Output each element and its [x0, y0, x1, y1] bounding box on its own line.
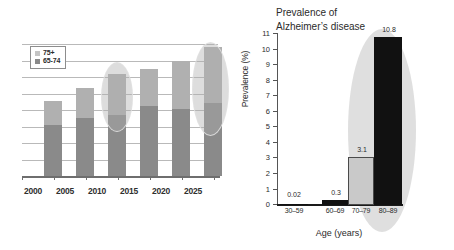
two-panel-figure: 75+ 65-74 2000 2005 2010 2015 2020 2025 … [0, 0, 454, 250]
bar-2015 [140, 69, 158, 176]
bar-segment-75plus [76, 88, 94, 118]
x-tick-label: 70–79 [346, 207, 376, 214]
bar-value-label: 0.02 [280, 191, 308, 198]
legend-swatch-icon [35, 59, 40, 64]
bar-segment-65-74 [44, 125, 62, 176]
y-tick-label: 8 [240, 76, 270, 85]
legend-label: 65-74 [43, 57, 60, 65]
y-tick-label: 6 [240, 107, 270, 116]
bar-2000 [44, 101, 62, 176]
left-chart-panel: 75+ 65-74 2000 2005 2010 2015 2020 2025 [0, 0, 232, 250]
y-tick [273, 49, 277, 50]
right-plot-area [278, 33, 400, 205]
y-tick [273, 157, 277, 158]
bar-segment-75plus [108, 74, 126, 115]
legend-label: 75+ [43, 49, 55, 57]
bar-segment-75plus [44, 101, 62, 125]
bar-2010 [108, 74, 126, 176]
y-tick [273, 173, 277, 174]
right-chart-panel: Prevalence of Alzheimer’s disease Preval… [232, 0, 454, 250]
y-tick [273, 33, 277, 34]
bar-value-label: 3.1 [348, 146, 376, 153]
y-tick-label: 4 [240, 138, 270, 147]
x-tick [118, 176, 119, 180]
y-tick-label: 1 [240, 185, 270, 194]
y-tick-label: 10 [240, 45, 270, 54]
bar-segment-65-74 [108, 115, 126, 176]
bar-age-60-69 [322, 200, 348, 205]
left-chart-legend: 75+ 65-74 [30, 46, 66, 69]
x-axis-label: Age (years) [278, 228, 400, 238]
y-tick [273, 204, 277, 205]
x-tick [22, 176, 23, 180]
bar-2005 [76, 88, 94, 176]
y-tick [273, 111, 277, 112]
chart-title-line-1: Prevalence of [276, 6, 406, 20]
y-tick-label: 0 [240, 200, 270, 209]
x-tick [214, 176, 215, 180]
y-tick-label: 7 [240, 91, 270, 100]
bar-2025 [204, 47, 222, 176]
bar-2020 [172, 61, 190, 176]
bar-segment-65-74 [172, 109, 190, 176]
y-tick-label: 3 [240, 153, 270, 162]
x-tick [86, 176, 87, 180]
bar-age-80-89 [374, 37, 402, 205]
bar-age-30-59 [280, 204, 308, 206]
bar-segment-65-74 [76, 118, 94, 176]
y-tick [273, 80, 277, 81]
bar-value-label: 0.3 [322, 189, 350, 196]
bar-segment-65-74 [140, 106, 158, 176]
y-tick [273, 126, 277, 127]
y-tick [273, 189, 277, 190]
left-x-axis-line [22, 176, 220, 178]
legend-entry-65-74: 65-74 [35, 57, 60, 65]
x-tick [54, 176, 55, 180]
bar-segment-65-74 [204, 103, 222, 176]
gridline [22, 44, 218, 45]
x-tick-label: 30–59 [279, 207, 309, 214]
y-tick-label: 11 [240, 29, 270, 38]
y-tick-label: 9 [240, 60, 270, 69]
y-tick [273, 95, 277, 96]
bar-segment-75plus [140, 69, 158, 106]
y-tick-label: 2 [240, 169, 270, 178]
bar-segment-75plus [172, 61, 190, 109]
x-tick [150, 176, 151, 180]
legend-swatch-icon [35, 51, 40, 56]
bar-age-70-79 [348, 157, 374, 205]
y-tick [273, 142, 277, 143]
x-tick-label: 80–89 [373, 207, 403, 214]
bar-value-label: 10.8 [375, 26, 403, 33]
x-tick [182, 176, 183, 180]
y-tick-label: 5 [240, 122, 270, 131]
legend-entry-75plus: 75+ [35, 49, 60, 57]
y-tick [273, 64, 277, 65]
x-tick-label: 2025 [173, 186, 213, 196]
bar-segment-75plus [204, 47, 222, 104]
